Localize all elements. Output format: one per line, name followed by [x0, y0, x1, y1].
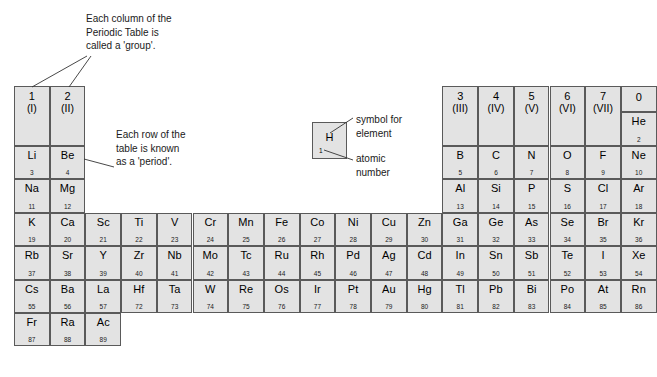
element-cell[interactable]: Rn86: [621, 280, 657, 313]
element-cell[interactable]: Be4: [50, 146, 86, 179]
element-cell[interactable]: V23: [157, 213, 193, 246]
element-cell[interactable]: Hg80: [407, 280, 443, 313]
element-cell[interactable]: As33: [514, 213, 550, 246]
element-cell[interactable]: Au79: [371, 280, 407, 313]
element-cell[interactable]: Fr87: [14, 313, 50, 346]
element-cell[interactable]: Rh45: [300, 246, 336, 279]
element-cell[interactable]: Zr40: [121, 246, 157, 279]
element-atomic-number: 43: [229, 270, 263, 278]
example-element-symbol: H: [313, 131, 346, 143]
element-cell[interactable]: Fe26: [264, 213, 300, 246]
element-cell[interactable]: Tc43: [228, 246, 264, 279]
element-symbol: Br: [586, 216, 620, 228]
element-cell[interactable]: Ca20: [50, 213, 86, 246]
element-cell[interactable]: Ag47: [371, 246, 407, 279]
element-cell[interactable]: Ti22: [121, 213, 157, 246]
element-cell[interactable]: K19: [14, 213, 50, 246]
element-cell[interactable]: S16: [550, 179, 586, 212]
element-symbol: P: [515, 182, 549, 194]
element-cell[interactable]: Re75: [228, 280, 264, 313]
group-header-roman: (V): [515, 102, 549, 114]
element-atomic-number: 28: [336, 236, 370, 244]
element-cell[interactable]: Cu29: [371, 213, 407, 246]
element-cell[interactable]: He2: [621, 112, 657, 146]
element-cell[interactable]: Sb51: [514, 246, 550, 279]
element-atomic-number: 82: [479, 303, 513, 311]
element-atomic-number: 22: [122, 236, 156, 244]
element-cell[interactable]: B5: [442, 146, 478, 179]
element-cell[interactable]: Mo42: [193, 246, 229, 279]
element-cell[interactable]: W74: [193, 280, 229, 313]
element-cell[interactable]: I53: [585, 246, 621, 279]
element-cell[interactable]: Sn50: [478, 246, 514, 279]
element-symbol: V: [158, 216, 192, 228]
element-atomic-number: 27: [301, 236, 335, 244]
element-cell[interactable]: Ni28: [335, 213, 371, 246]
group-header-4: 4(IV): [478, 86, 514, 146]
element-cell[interactable]: Pb82: [478, 280, 514, 313]
element-cell[interactable]: Li3: [14, 146, 50, 179]
element-cell[interactable]: Pt78: [335, 280, 371, 313]
element-cell[interactable]: Os76: [264, 280, 300, 313]
element-symbol: I: [586, 249, 620, 261]
element-cell[interactable]: Mg12: [50, 179, 86, 212]
element-cell[interactable]: Y39: [85, 246, 121, 279]
element-cell[interactable]: Nb41: [157, 246, 193, 279]
element-cell[interactable]: Po84: [550, 280, 586, 313]
element-cell[interactable]: Cd48: [407, 246, 443, 279]
element-cell[interactable]: In49: [442, 246, 478, 279]
element-symbol: In: [443, 249, 477, 261]
element-cell[interactable]: Te52: [550, 246, 586, 279]
element-cell[interactable]: Sc21: [85, 213, 121, 246]
element-cell[interactable]: Cl17: [585, 179, 621, 212]
element-cell[interactable]: La57: [85, 280, 121, 313]
element-cell[interactable]: Na11: [14, 179, 50, 212]
element-cell[interactable]: Ne10: [621, 146, 657, 179]
element-atomic-number: 72: [122, 303, 156, 311]
element-cell[interactable]: Ga31: [442, 213, 478, 246]
element-symbol: Cd: [408, 249, 442, 261]
element-cell[interactable]: Sr38: [50, 246, 86, 279]
element-cell[interactable]: Br35: [585, 213, 621, 246]
group-header-6: 6(VI): [550, 86, 586, 146]
element-symbol: Fr: [15, 316, 49, 328]
element-cell[interactable]: Cr24: [193, 213, 229, 246]
element-symbol: Ru: [265, 249, 299, 261]
element-cell[interactable]: Al13: [442, 179, 478, 212]
element-cell[interactable]: C6: [478, 146, 514, 179]
element-atomic-number: 29: [372, 236, 406, 244]
element-cell[interactable]: F9: [585, 146, 621, 179]
element-cell[interactable]: Kr36: [621, 213, 657, 246]
element-cell[interactable]: Se34: [550, 213, 586, 246]
element-cell[interactable]: Ac89: [85, 313, 121, 346]
element-cell[interactable]: Ra88: [50, 313, 86, 346]
element-cell[interactable]: Ir77: [300, 280, 336, 313]
element-cell[interactable]: At85: [585, 280, 621, 313]
element-cell[interactable]: Pd46: [335, 246, 371, 279]
element-cell[interactable]: Rb37: [14, 246, 50, 279]
element-atomic-number: 30: [408, 236, 442, 244]
element-cell[interactable]: P15: [514, 179, 550, 212]
element-cell[interactable]: Si14: [478, 179, 514, 212]
element-cell[interactable]: Xe54: [621, 246, 657, 279]
element-atomic-number: 4: [51, 169, 85, 177]
element-symbol: Sr: [51, 249, 85, 261]
element-cell[interactable]: Tl81: [442, 280, 478, 313]
element-symbol: Kr: [622, 216, 656, 228]
element-cell[interactable]: Bi83: [514, 280, 550, 313]
element-cell[interactable]: Co27: [300, 213, 336, 246]
element-cell[interactable]: Hf72: [121, 280, 157, 313]
element-cell[interactable]: N7: [514, 146, 550, 179]
element-cell[interactable]: Cs55: [14, 280, 50, 313]
element-cell[interactable]: Mn25: [228, 213, 264, 246]
element-symbol: B: [443, 149, 477, 161]
element-symbol: Sn: [479, 249, 513, 261]
element-cell[interactable]: Zn30: [407, 213, 443, 246]
element-cell[interactable]: Ge32: [478, 213, 514, 246]
element-cell[interactable]: Ta73: [157, 280, 193, 313]
element-cell[interactable]: Ar18: [621, 179, 657, 212]
element-cell[interactable]: Ru44: [264, 246, 300, 279]
element-cell[interactable]: Ba56: [50, 280, 86, 313]
group-header-number: 0: [622, 91, 656, 103]
element-cell[interactable]: O8: [550, 146, 586, 179]
